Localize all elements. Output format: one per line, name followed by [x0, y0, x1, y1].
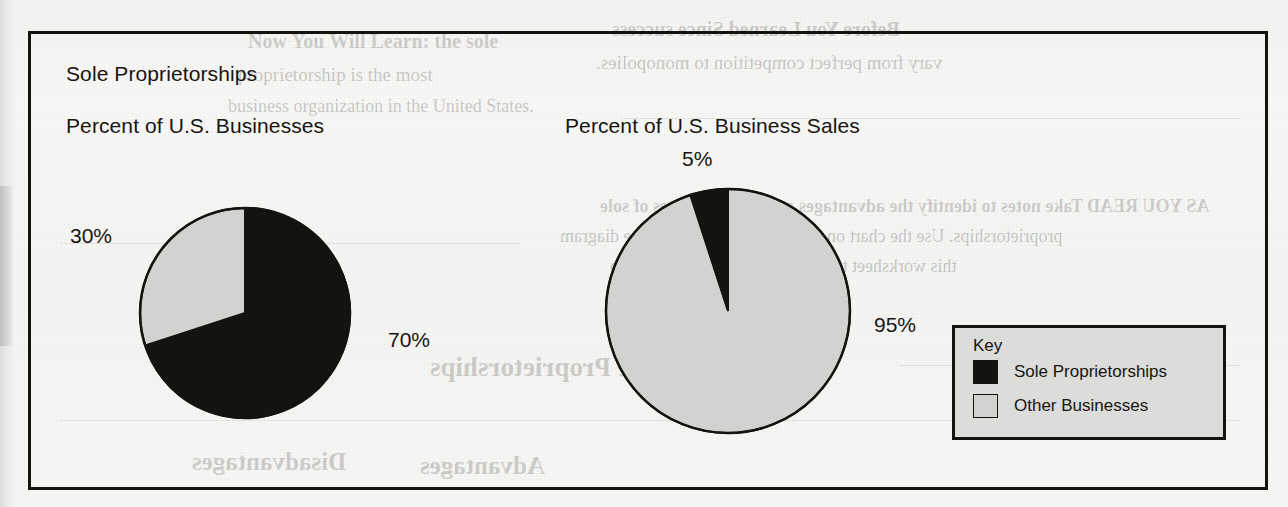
data-label-sales-other: 95% [874, 313, 916, 337]
data-label-businesses-sole: 70% [388, 328, 430, 352]
scan-edge-shadow [0, 186, 13, 346]
data-label-businesses-other: 30% [70, 224, 112, 248]
legend-swatch-sole-proprietorships [973, 360, 998, 384]
chart-title-sales: Percent of U.S. Business Sales [565, 114, 860, 138]
legend-swatch-other-businesses [973, 394, 998, 418]
chart-title-businesses: Percent of U.S. Businesses [66, 114, 324, 138]
legend-label-sole-proprietorships: Sole Proprietorships [1014, 362, 1167, 382]
figure-heading: Sole Proprietorships [66, 62, 257, 86]
legend-item-sole-proprietorships: Sole Proprietorships [973, 360, 1167, 384]
pie-chart-percent-of-us-businesses [138, 206, 352, 424]
legend-item-other-businesses: Other Businesses [973, 394, 1148, 418]
legend-label-other-businesses: Other Businesses [1014, 396, 1148, 416]
legend-key-box: Key Sole Proprietorships Other Businesse… [952, 325, 1226, 440]
data-label-sales-sole: 5% [682, 147, 712, 171]
legend-title: Key [973, 336, 1002, 356]
pie-chart-percent-of-us-business-sales [604, 187, 852, 439]
